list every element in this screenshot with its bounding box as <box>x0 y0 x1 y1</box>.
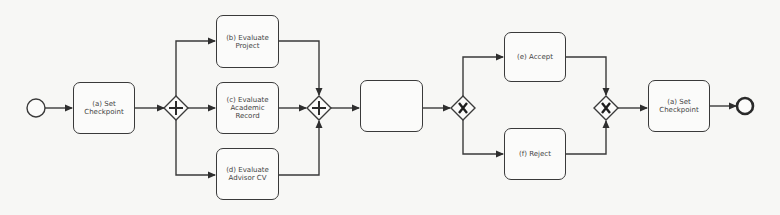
task-set-checkpoint-start[interactable]: (a) Set Checkpoint <box>73 82 135 134</box>
task-blank[interactable] <box>360 80 423 132</box>
flow-xor-split-to-reject <box>463 120 503 154</box>
task-reject[interactable]: (f) Reject <box>504 128 566 180</box>
parallel-split-gateway-icon[interactable] <box>164 96 188 120</box>
parallel-join-gateway-icon[interactable] <box>307 96 331 120</box>
task-label: (c) Evaluate Academic Record <box>226 96 268 120</box>
task-evaluate-advisor-cv[interactable]: (d) Evaluate Advisor CV <box>216 148 279 200</box>
exclusive-split-gateway-icon[interactable] <box>451 96 475 120</box>
task-label: (e) Accept <box>517 53 553 61</box>
flow-split-to-evaluate-project <box>176 41 215 96</box>
flow-xor-split-to-accept <box>463 57 503 96</box>
flow-evaluate-advisor-to-join <box>279 121 319 175</box>
exclusive-join-gateway-icon[interactable] <box>594 96 618 120</box>
task-evaluate-academic-record[interactable]: (c) Evaluate Academic Record <box>216 82 279 134</box>
task-label: (a) Set Checkpoint <box>84 100 123 116</box>
task-label: (d) Evaluate Advisor CV <box>226 166 269 182</box>
flow-evaluate-project-to-join <box>279 41 319 95</box>
task-accept[interactable]: (e) Accept <box>504 32 566 82</box>
task-set-checkpoint-end[interactable]: (a) Set Checkpoint <box>648 80 710 132</box>
flow-reject-to-xor-join <box>566 121 606 154</box>
flow-accept-to-xor-join <box>566 57 606 95</box>
end-event-icon[interactable] <box>737 98 753 114</box>
task-label: (f) Reject <box>519 150 551 158</box>
flow-split-to-evaluate-advisor <box>176 120 215 175</box>
task-label: (b) Evaluate Project <box>226 34 269 50</box>
task-evaluate-project[interactable]: (b) Evaluate Project <box>216 15 279 68</box>
task-label: (a) Set Checkpoint <box>659 98 698 114</box>
start-event-icon[interactable] <box>27 99 45 117</box>
